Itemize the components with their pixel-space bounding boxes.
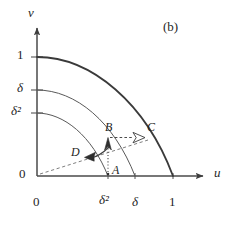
arc-group <box>37 57 173 176</box>
x-tick-label-1: 1 <box>169 195 176 208</box>
point-label-C: C <box>147 121 155 133</box>
point-A-dot <box>107 173 110 176</box>
y-tick-label-0: 0 <box>19 167 26 180</box>
y-tick-label-1: 1 <box>17 48 24 61</box>
x-tick-label-delta-squared: δ² <box>99 193 109 206</box>
y-tick-label-delta: δ <box>17 81 23 94</box>
panel-label: (b) <box>163 20 178 33</box>
x-tick-label-delta: δ <box>132 195 138 208</box>
point-label-A: A <box>112 164 119 176</box>
delta-arc <box>37 90 135 176</box>
x-tick-label-0: 0 <box>33 195 40 208</box>
point-label-B: B <box>105 121 112 133</box>
B-to-C-arrowhead <box>133 132 145 142</box>
y-tick-label-delta-squared: δ² <box>11 104 21 117</box>
unit-arc <box>37 57 173 176</box>
y-axis-label: v <box>28 6 34 19</box>
axis-group <box>31 28 203 179</box>
figure-panel-b: v u (b) 1 δ δ² 0 0 δ² δ 1 A B C D <box>0 0 233 235</box>
x-axis-label: u <box>214 166 221 179</box>
point-label-D: D <box>71 146 80 158</box>
